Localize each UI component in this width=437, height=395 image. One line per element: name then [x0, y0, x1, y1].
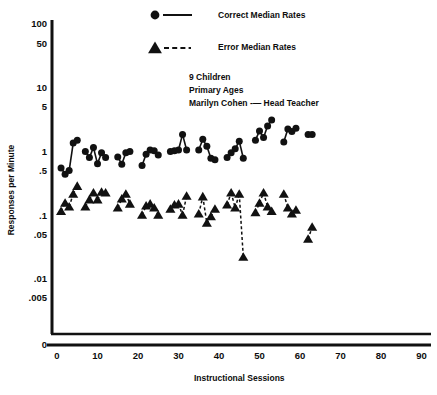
y-tick-label: .01	[34, 273, 48, 284]
data-point-triangle	[56, 206, 66, 215]
data-point-triangle	[198, 192, 208, 201]
data-point-circle	[114, 153, 121, 160]
y-tick-label: 0	[42, 339, 47, 350]
x-tick-label: 20	[133, 350, 144, 361]
x-tick-label: 80	[376, 350, 387, 361]
data-point-circle	[203, 143, 210, 150]
data-point-triangle	[238, 252, 248, 261]
x-tick-label: 30	[173, 350, 184, 361]
y-tick-label: 10	[36, 82, 47, 93]
data-point-triangle	[206, 212, 216, 221]
data-point-circle	[309, 131, 316, 138]
data-point-triangle	[137, 210, 147, 219]
data-point-circle	[126, 148, 133, 155]
y-tick-label: 1	[42, 146, 48, 157]
data-point-triangle	[178, 210, 188, 219]
y-tick-label: 100	[31, 18, 47, 29]
y-tick-label: .5	[39, 165, 48, 176]
data-point-circle	[280, 139, 287, 146]
data-point-circle	[232, 145, 239, 152]
data-point-circle	[268, 117, 275, 124]
data-point-circle	[66, 167, 73, 174]
legend-entry: Error Median Rates	[148, 41, 296, 53]
data-point-circle	[90, 144, 97, 151]
data-point-circle	[175, 147, 182, 154]
x-tick-label: 50	[254, 350, 265, 361]
data-point-triangle	[194, 209, 204, 218]
x-tick-label: 60	[295, 350, 306, 361]
data-point-triangle	[226, 188, 236, 197]
data-point-triangle	[72, 181, 82, 190]
series-connector-line	[203, 197, 207, 223]
data-point-triangle	[68, 189, 78, 198]
y-axis-title: Responses per Minute	[6, 144, 16, 235]
data-point-circle	[183, 147, 190, 154]
data-point-triangle	[259, 188, 269, 197]
data-point-triangle	[182, 191, 192, 200]
data-point-triangle	[254, 198, 264, 207]
data-point-circle	[240, 155, 247, 162]
data-point-triangle	[307, 222, 317, 231]
x-axis-title: Instructional Sessions	[194, 373, 285, 383]
data-point-circle	[179, 131, 186, 138]
chart-canvas: 100501051.5.1.05.01.00500102030405060708…	[0, 0, 437, 395]
series-error-median-rates	[56, 181, 317, 260]
y-tick-label: 5	[42, 101, 48, 112]
data-point-triangle	[291, 205, 301, 214]
data-point-triangle	[230, 203, 240, 212]
data-point-triangle	[121, 189, 131, 198]
x-tick-label: 90	[416, 350, 427, 361]
chart-figure: 100501051.5.1.05.01.00500102030405060708…	[0, 0, 437, 395]
data-point-circle	[155, 151, 162, 158]
data-point-circle	[195, 147, 202, 154]
legend-entry: Correct Median Rates	[151, 10, 306, 20]
data-point-triangle	[250, 208, 260, 217]
data-point-circle	[82, 148, 89, 155]
data-point-circle	[118, 161, 125, 168]
data-point-circle	[256, 127, 263, 134]
data-point-circle	[86, 154, 93, 161]
data-point-circle	[199, 136, 206, 143]
data-point-circle	[252, 137, 259, 144]
data-point-triangle	[113, 203, 123, 212]
legend-triangle-icon	[148, 41, 162, 53]
legend-label: Error Median Rates	[218, 42, 296, 52]
data-point-circle	[260, 134, 267, 141]
data-point-circle	[211, 156, 218, 163]
data-point-circle	[236, 138, 243, 145]
data-point-circle	[264, 123, 271, 130]
annotation-line: Primary Ages	[189, 85, 244, 95]
x-tick-label: 10	[92, 350, 103, 361]
y-tick-label: .1	[39, 210, 48, 221]
series-connector-line	[69, 143, 73, 170]
data-point-triangle	[222, 200, 232, 209]
x-tick-label: 70	[335, 350, 346, 361]
data-point-circle	[102, 154, 109, 161]
series-connector-line	[239, 194, 243, 257]
data-point-triangle	[210, 204, 220, 213]
data-point-circle	[94, 160, 101, 167]
data-point-triangle	[125, 199, 135, 208]
annotation-line: 9 Children	[189, 72, 231, 82]
data-point-triangle	[303, 234, 313, 243]
x-tick-label: 40	[214, 350, 225, 361]
legend-circle-icon	[151, 11, 160, 20]
data-point-circle	[74, 137, 81, 144]
y-tick-label: .005	[29, 292, 48, 303]
data-point-circle	[139, 162, 146, 169]
data-point-circle	[292, 125, 299, 132]
data-point-triangle	[279, 189, 289, 198]
annotation-line: Marilyn Cohen -— Head Teacher	[189, 98, 319, 108]
data-point-triangle	[234, 189, 244, 198]
x-tick-label: 0	[54, 350, 59, 361]
legend-label: Correct Median Rates	[218, 10, 306, 20]
series-correct-median-rates	[58, 117, 316, 178]
y-tick-label: 50	[36, 38, 47, 49]
data-point-circle	[58, 164, 65, 171]
y-tick-label: .05	[34, 229, 48, 240]
